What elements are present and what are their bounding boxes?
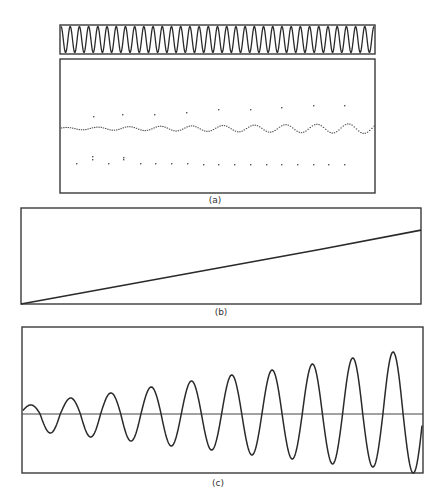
sample-point [108, 163, 109, 164]
panel-b [21, 208, 421, 304]
sample-point [266, 164, 267, 165]
panel-b-label: (b) [215, 307, 228, 317]
panel-a-top-trace [61, 27, 374, 53]
panel-b-frame [21, 208, 421, 304]
sample-point [140, 163, 141, 164]
panel-a-dotted-trace [61, 123, 375, 134]
sample-point [171, 163, 172, 164]
sample-point [92, 156, 93, 157]
panel-a-top-strip [60, 25, 375, 54]
sample-point [313, 105, 314, 106]
panel-c-growing-sine-trace [23, 352, 422, 473]
sample-point [187, 163, 188, 164]
sample-point [154, 114, 155, 115]
sample-point [122, 114, 123, 115]
sample-point [313, 164, 314, 165]
panel-a-lower [60, 59, 375, 193]
sample-point [344, 164, 345, 165]
sample-point [218, 164, 219, 165]
sample-point [123, 159, 124, 160]
sample-point [250, 164, 251, 165]
panel-a-lower-frame [60, 59, 375, 193]
sample-point [123, 157, 124, 158]
sample-point [93, 116, 94, 117]
panel-a-label: (a) [209, 195, 222, 205]
sample-point [76, 163, 77, 164]
sample-point [344, 105, 345, 106]
sample-point [297, 164, 298, 165]
panel-c-frame [22, 327, 423, 473]
figure-canvas: (a) (b) (c) [0, 0, 443, 500]
sample-point [186, 112, 187, 113]
sample-point [281, 164, 282, 165]
sample-point [328, 164, 329, 165]
sample-point [281, 107, 282, 108]
sample-point [218, 109, 219, 110]
sample-point [92, 159, 93, 160]
panel-c [22, 327, 423, 473]
panel-a-top-frame [60, 25, 375, 54]
panel-b-ramp-trace [21, 230, 421, 304]
panel-a-sample-points [76, 105, 345, 165]
sample-point [203, 164, 204, 165]
panel-c-label: (c) [212, 478, 224, 488]
sample-point [155, 163, 156, 164]
sample-point [250, 109, 251, 110]
sample-point [234, 164, 235, 165]
